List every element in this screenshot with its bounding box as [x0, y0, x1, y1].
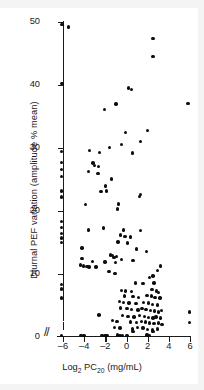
data-point [127, 301, 130, 304]
data-point [139, 140, 142, 143]
data-point [87, 170, 90, 173]
data-point [153, 309, 156, 312]
data-point [104, 184, 107, 187]
data-point [144, 308, 147, 311]
data-point [159, 316, 162, 319]
data-point [160, 323, 163, 326]
data-point [103, 260, 106, 263]
data-point [125, 307, 128, 310]
data-point [82, 334, 85, 337]
data-point [145, 294, 148, 297]
data-point [125, 334, 128, 337]
data-point [159, 264, 162, 267]
data-points-layer [0, 0, 204, 390]
data-point [116, 240, 119, 243]
data-point [60, 82, 63, 85]
data-point [188, 310, 191, 313]
data-point [114, 102, 117, 105]
data-point [144, 320, 147, 323]
data-point [60, 175, 63, 178]
data-point [132, 315, 135, 318]
data-point [60, 232, 63, 235]
data-point [126, 241, 129, 244]
data-point [111, 319, 114, 322]
data-point [60, 195, 63, 198]
data-point [148, 334, 151, 337]
data-point [123, 294, 126, 297]
data-point [188, 321, 191, 324]
data-point [150, 288, 153, 291]
data-point [105, 189, 108, 192]
x-axis-label-mid: PC [82, 362, 98, 372]
data-point [149, 309, 152, 312]
data-point [135, 321, 138, 324]
data-point [110, 177, 113, 180]
data-point [60, 226, 63, 229]
data-point [139, 229, 142, 232]
data-point [67, 25, 70, 28]
data-point [60, 189, 63, 192]
data-point [114, 261, 117, 264]
data-point [93, 164, 96, 167]
data-point [107, 270, 110, 273]
data-point [102, 226, 105, 229]
data-point [119, 306, 122, 309]
data-point [158, 296, 161, 299]
data-point [152, 322, 155, 325]
data-point [147, 301, 150, 304]
data-point [96, 172, 99, 175]
data-point [91, 260, 94, 263]
data-point [105, 334, 108, 337]
x-axis-label-base: Log [62, 362, 78, 372]
data-point [156, 303, 159, 306]
data-point [156, 269, 159, 272]
data-point [142, 301, 145, 304]
data-point [141, 282, 144, 285]
data-point [97, 313, 100, 316]
data-point [113, 326, 116, 329]
data-point [130, 308, 133, 311]
data-point [60, 334, 63, 337]
data-point [131, 295, 134, 298]
data-point [97, 165, 100, 168]
data-point [148, 321, 151, 324]
data-point [145, 250, 148, 253]
data-point [120, 258, 123, 261]
data-point [160, 309, 163, 312]
x-axis-label-sub-20: 20 [97, 367, 105, 374]
data-point [60, 296, 63, 299]
data-point [80, 246, 83, 249]
data-point [120, 289, 123, 292]
data-point [143, 315, 146, 318]
data-point [151, 303, 154, 306]
data-point [103, 108, 106, 111]
data-point [124, 289, 127, 292]
data-point [84, 203, 87, 206]
data-point [152, 281, 155, 284]
data-point [120, 143, 123, 146]
data-point [137, 296, 140, 299]
data-point [118, 326, 121, 329]
data-point [151, 274, 154, 277]
data-point [129, 320, 132, 323]
data-point [129, 235, 132, 238]
data-point [134, 302, 137, 305]
data-point [121, 334, 124, 337]
data-point [138, 195, 141, 198]
data-point [60, 150, 63, 153]
data-point [116, 207, 119, 210]
data-point [154, 315, 157, 318]
data-point [126, 315, 129, 318]
data-point [119, 233, 122, 236]
data-point [130, 88, 133, 91]
data-point [122, 228, 125, 231]
data-point [157, 291, 160, 294]
data-point [151, 55, 154, 58]
data-point [117, 202, 120, 205]
data-point [141, 326, 144, 329]
scatter-plot-figure: Diurnal PEF variation (amplitude % mean)… [0, 0, 204, 390]
x-axis-label: Log2 PC20 (mg/mL) [0, 362, 204, 374]
data-point [134, 281, 137, 284]
data-point [136, 326, 139, 329]
data-point [60, 241, 63, 244]
